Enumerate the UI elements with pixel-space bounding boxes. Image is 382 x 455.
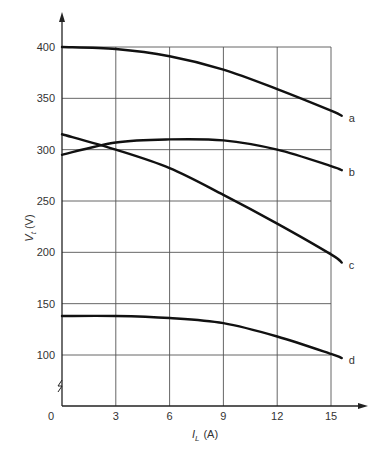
x-axis-arrow-icon [358, 403, 368, 409]
y-tick-label: 100 [37, 349, 55, 361]
curve-c [62, 134, 342, 262]
x-tick-label: 12 [271, 410, 283, 422]
y-axis-arrow-icon [59, 12, 65, 22]
curve-label-a: a [349, 112, 356, 124]
x-tick-label: 0 [48, 410, 54, 422]
curves: abcd [62, 47, 356, 366]
line-chart: 40035030025020015010003691215 abcd Vt(V)… [0, 0, 382, 455]
curve-d [62, 316, 342, 358]
x-tick-label: 9 [220, 410, 226, 422]
y-tick-label: 300 [37, 144, 55, 156]
y-tick-label: 250 [37, 195, 55, 207]
curve-a [62, 47, 342, 116]
y-tick-label: 200 [37, 246, 55, 258]
x-axis-label: IL(A) [192, 428, 218, 443]
y-axis-label: Vt(V) [23, 214, 38, 241]
grid-lines [62, 47, 331, 406]
axes [58, 12, 368, 409]
x-tick-label: 15 [325, 410, 337, 422]
x-tick-label: 6 [167, 410, 173, 422]
y-tick-label: 400 [37, 41, 55, 53]
y-tick-label: 150 [37, 298, 55, 310]
curve-label-c: c [349, 259, 355, 271]
curve-label-b: b [349, 166, 355, 178]
curve-b [62, 139, 342, 170]
curve-label-d: d [349, 354, 355, 366]
y-tick-label: 350 [37, 92, 55, 104]
x-tick-label: 3 [113, 410, 119, 422]
